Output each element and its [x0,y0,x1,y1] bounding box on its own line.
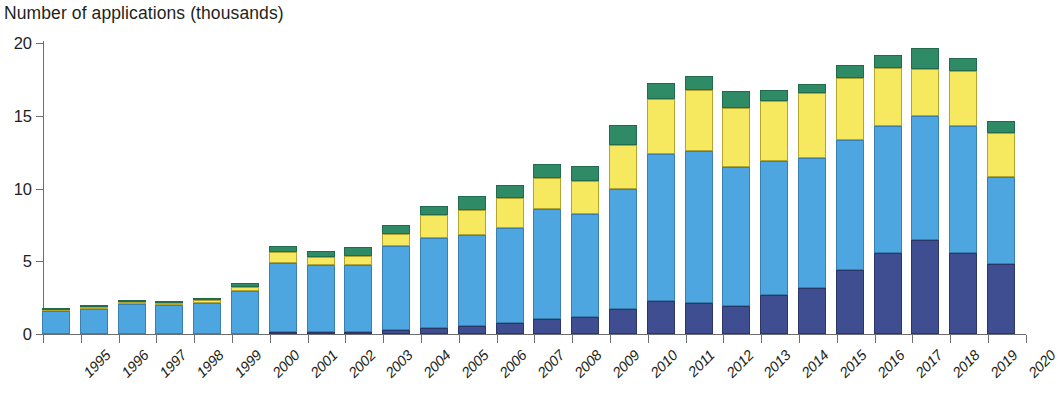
x-tick-mark [459,335,460,343]
x-tick-mark [950,335,951,343]
bar-segment-segment-4-green-2000 [231,283,259,287]
bar-segment-segment-3-yellow-2015 [798,93,826,158]
bar-segment-segment-4-green-2020 [987,121,1015,133]
bar-2012 [685,76,713,334]
bar-segment-segment-3-yellow-2017 [874,68,902,126]
bar-segment-segment-4-green-2016 [836,65,864,78]
bar-segment-segment-1-navy-2004 [382,330,410,334]
bar-segment-segment-4-green-2005 [420,206,448,215]
bar-segment-segment-2-light-blue-2012 [685,151,713,303]
bar-2009 [571,166,599,334]
bar-1996 [80,306,108,334]
bar-segment-segment-3-yellow-2013 [722,108,750,167]
bar-2007 [496,185,524,334]
bar-segment-segment-1-navy-2016 [836,270,864,334]
bar-1995 [42,309,70,334]
x-tick-mark [345,335,346,343]
bar-segment-segment-4-green-2007 [496,185,524,198]
bar-segment-segment-2-light-blue-2019 [949,126,977,253]
bar-2010 [609,125,637,334]
x-tick-label: 2015 [836,347,870,381]
bar-segment-segment-4-green-2015 [798,84,826,93]
x-tick-mark [799,335,800,343]
bar-segment-segment-4-green-2018 [911,48,939,69]
bar-2019 [949,58,977,334]
bar-segment-segment-4-green-1995 [42,308,70,310]
bar-2017 [874,55,902,334]
x-tick-mark [610,335,611,343]
x-tick-label: 2016 [874,347,908,381]
bar-segment-segment-2-light-blue-2002 [307,265,335,333]
bar-1998 [155,302,183,334]
x-tick-label: 2014 [798,347,832,381]
x-tick-mark [912,335,913,343]
bar-segment-segment-4-green-2011 [647,83,675,99]
bar-segment-segment-3-yellow-1998 [155,303,183,305]
bar-segment-segment-2-light-blue-2010 [609,189,637,309]
bar-segment-segment-2-light-blue-2005 [420,238,448,328]
bar-segment-segment-2-light-blue-2018 [911,116,939,240]
x-tick-mark [308,335,309,343]
bar-2008 [533,164,561,334]
x-tick-label: 2001 [307,347,341,381]
bar-segment-segment-3-yellow-2018 [911,69,939,116]
bar-segment-segment-4-green-1997 [118,300,146,302]
bar-segment-segment-2-light-blue-1997 [118,304,146,334]
x-tick-mark [194,335,195,343]
bar-segment-segment-1-navy-2003 [344,332,372,334]
bar-segment-segment-2-light-blue-1995 [42,311,70,334]
bar-segment-segment-2-light-blue-2009 [571,214,599,317]
x-tick-label: 2017 [912,347,946,381]
x-tick-mark [988,335,989,343]
x-tick-mark [534,335,535,343]
bar-segment-segment-2-light-blue-1999 [193,303,221,334]
bar-2000 [231,283,259,334]
bar-segment-segment-3-yellow-2000 [231,287,259,291]
bar-segment-segment-3-yellow-2014 [760,101,788,161]
x-tick-label: 2012 [723,347,757,381]
bar-segment-segment-4-green-2019 [949,58,977,70]
x-tick-label: 2011 [685,347,718,380]
x-tick-mark [875,335,876,343]
bar-segment-segment-3-yellow-2007 [496,198,524,228]
bar-segment-segment-3-yellow-2009 [571,181,599,214]
x-tick-mark [232,335,233,343]
bar-segment-segment-3-yellow-2016 [836,78,864,140]
bar-segment-segment-2-light-blue-2011 [647,154,675,301]
x-tick-label: 1999 [231,347,265,381]
bar-segment-segment-2-light-blue-2001 [269,263,297,332]
x-tick-mark [837,335,838,343]
bar-segment-segment-4-green-2004 [382,225,410,234]
y-tick-mark [36,43,44,44]
plot-area [44,43,1026,334]
bar-segment-segment-2-light-blue-2014 [760,161,788,295]
x-tick-mark [648,335,649,343]
x-tick-label: 2008 [572,347,606,381]
bar-2002 [307,251,335,334]
bar-segment-segment-3-yellow-2011 [647,99,675,154]
x-tick-label: 2003 [383,347,417,381]
x-tick-mark [383,335,384,343]
bar-1999 [193,298,221,334]
x-tick-label: 2006 [496,347,530,381]
x-tick-mark [1026,335,1027,343]
bar-segment-segment-2-light-blue-1996 [80,309,108,334]
bar-segment-segment-1-navy-2015 [798,288,826,334]
bar-2011 [647,83,675,334]
bar-segment-segment-1-navy-2014 [760,295,788,334]
bar-2003 [344,247,372,334]
bar-segment-segment-3-yellow-2002 [307,257,335,265]
x-tick-mark [686,335,687,343]
bar-segment-segment-2-light-blue-2006 [458,235,486,326]
bar-segment-segment-3-yellow-1999 [193,300,221,303]
bar-2020 [987,121,1015,334]
bar-segment-segment-4-green-2003 [344,247,372,256]
x-tick-label: 2000 [269,347,303,381]
y-tick-label: 5 [0,253,32,270]
bar-segment-segment-3-yellow-2006 [458,210,486,235]
y-tick-label: 10 [0,181,32,198]
bar-2001 [269,246,297,334]
bar-segment-segment-1-navy-2005 [420,328,448,334]
bar-segment-segment-3-yellow-2008 [533,178,561,209]
x-tick-label: 1996 [118,347,152,381]
